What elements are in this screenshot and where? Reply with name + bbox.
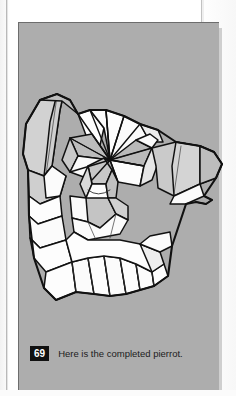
page-edge-line-highlight [202, 0, 204, 24]
caption-text: Here is the completed pierrot. [58, 348, 183, 360]
page-gutter-line-highlight [7, 0, 8, 396]
figure-panel-shadow [219, 28, 222, 390]
caption: 69 Here is the completed pierrot. [30, 346, 183, 361]
caption-number-badge: 69 [30, 346, 49, 361]
figure-panel [18, 22, 219, 390]
scanned-book-page: 69 Here is the completed pierrot. [0, 0, 236, 396]
page-bottom-margin [0, 390, 236, 396]
